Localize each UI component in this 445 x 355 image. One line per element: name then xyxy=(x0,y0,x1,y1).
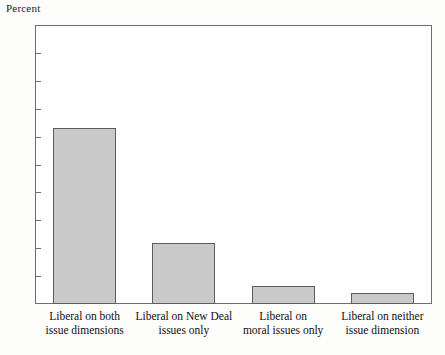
y-tick-mark xyxy=(35,248,41,249)
scan-noise xyxy=(0,347,445,355)
y-tick-20: 20 xyxy=(0,248,41,249)
y-tick-10: 10 xyxy=(0,276,41,277)
y-tick-90: 90 xyxy=(0,53,41,54)
chart-figure: Percent 102030405060708090 Liberal on bo… xyxy=(0,0,445,355)
y-tick-mark xyxy=(35,109,41,110)
bar-0 xyxy=(53,128,116,304)
y-tick-mark xyxy=(35,81,41,82)
category-label-3: Liberal on neither issue dimension xyxy=(333,309,432,337)
y-tick-mark xyxy=(35,137,41,138)
category-label-1: Liberal on New Deal issues only xyxy=(134,309,233,337)
bar-3 xyxy=(351,293,414,304)
category-label-2: Liberal on moral issues only xyxy=(234,309,333,337)
y-tick-30: 30 xyxy=(0,220,41,221)
y-tick-40: 40 xyxy=(0,192,41,193)
y-tick-mark xyxy=(35,192,41,193)
bar-2 xyxy=(252,286,315,304)
y-tick-50: 50 xyxy=(0,165,41,166)
category-label-0: Liberal on both issue dimensions xyxy=(35,309,134,337)
y-tick-80: 80 xyxy=(0,81,41,82)
y-axis-title: Percent xyxy=(6,2,40,14)
y-tick-70: 70 xyxy=(0,109,41,110)
bar-1 xyxy=(152,243,215,304)
y-tick-mark xyxy=(35,276,41,277)
y-tick-mark xyxy=(35,53,41,54)
y-tick-mark xyxy=(35,165,41,166)
y-tick-mark xyxy=(35,220,41,221)
y-tick-60: 60 xyxy=(0,137,41,138)
